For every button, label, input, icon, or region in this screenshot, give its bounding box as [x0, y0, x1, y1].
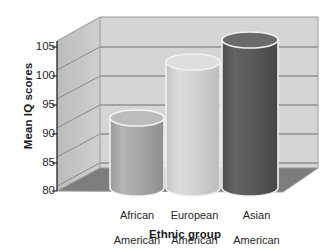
bar-european-american[interactable] [166, 54, 220, 196]
chart-container: 105 100 95 90 85 80 Mean IQ scores Ethni… [0, 0, 333, 249]
bar-asian-american[interactable] [222, 32, 278, 196]
left-side-wall [57, 17, 100, 191]
x-tick-label-line1: Asian [214, 209, 299, 222]
x-tick-label-asian-american: Asian American [214, 196, 299, 249]
bar-african-american[interactable] [110, 110, 164, 196]
y-axis-title: Mean IQ scores [22, 31, 34, 181]
y-tick-80: 80 [5, 185, 55, 196]
x-tick-label-line2: American [214, 234, 299, 247]
